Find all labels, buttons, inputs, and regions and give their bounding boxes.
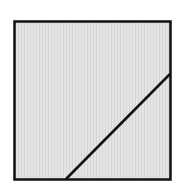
diagram-canvas [0,0,181,190]
square-shape [15,22,171,180]
